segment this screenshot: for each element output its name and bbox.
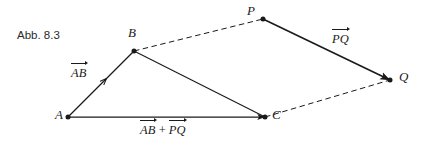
point-label-C: C xyxy=(272,108,281,121)
segment-P-Q xyxy=(263,19,390,80)
segment-P-Q-midhead xyxy=(263,19,327,50)
point-Q xyxy=(388,78,393,83)
segment-B-C-midhead xyxy=(134,51,200,84)
vector-notation-PQ-sum-term: PQ xyxy=(169,124,186,137)
diagram-canvas xyxy=(0,0,421,146)
vector-notation-AB: AB xyxy=(71,67,87,80)
point-label-Q: Q xyxy=(399,70,408,83)
point-label-A: A xyxy=(55,108,63,121)
vector-label-AB: AB xyxy=(71,67,87,80)
segment-C-Q xyxy=(265,80,390,117)
point-B xyxy=(132,49,137,54)
segment-B-P xyxy=(134,19,263,51)
segment-A-B-midhead xyxy=(68,81,104,117)
segment-B-C xyxy=(134,51,265,117)
vector-label-sum: AB + PQ xyxy=(140,124,186,137)
point-label-B: B xyxy=(128,26,136,39)
point-A xyxy=(66,115,71,120)
vector-label-PQ: PQ xyxy=(332,33,349,46)
point-label-P: P xyxy=(247,4,255,17)
point-C xyxy=(263,115,268,120)
plus-operator: + xyxy=(156,123,169,137)
figure-caption: Abb. 8.3 xyxy=(17,29,60,41)
vector-notation-AB-sum-term: AB xyxy=(140,124,156,137)
vector-notation-PQ: PQ xyxy=(332,33,349,46)
vector-addition-figure: Abb. 8.3 A B C P Q AB PQ AB + PQ xyxy=(0,0,421,146)
point-P xyxy=(261,17,266,22)
